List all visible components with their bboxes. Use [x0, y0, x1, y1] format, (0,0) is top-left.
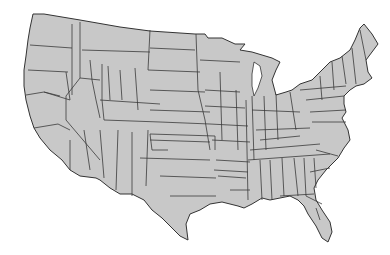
us-map	[0, 0, 390, 255]
us-landmass	[24, 14, 378, 242]
